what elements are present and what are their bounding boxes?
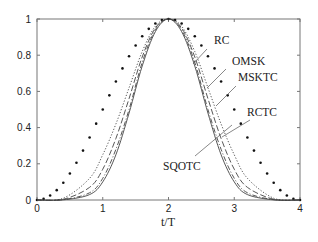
rc-dot (115, 80, 118, 83)
pulse-shape-chart: 01234 00.20.40.60.81 RCOMSKMSKTCRCTCSQOT… (0, 0, 318, 242)
label-msktc: MSKTC (238, 71, 278, 83)
rc-dot (121, 67, 124, 70)
rc-dot (180, 22, 183, 25)
rc-dot (220, 80, 223, 83)
rc-dot (108, 94, 111, 97)
x-tick-label: 4 (297, 203, 303, 214)
rc-dot (194, 35, 197, 38)
rc-dot (75, 161, 78, 164)
y-tick-labels: 00.20.40.60.81 (17, 14, 31, 206)
x-tick-label: 0 (34, 203, 40, 214)
rc-dot (213, 67, 216, 70)
rc-dot (272, 181, 275, 184)
x-tick-labels: 01234 (34, 203, 303, 214)
rc-dot (62, 181, 65, 184)
rc-dot (279, 189, 282, 192)
label-rctc: RCTC (247, 106, 277, 118)
y-tick-label: 0.2 (17, 158, 31, 169)
y-tick-label: 0.6 (17, 86, 31, 97)
rc-dot (207, 55, 210, 58)
rc-dot (128, 55, 131, 58)
rc-dot (286, 194, 289, 197)
y-tick-label: 0.4 (17, 122, 31, 133)
x-tick-label: 2 (166, 203, 172, 214)
leader-line-omsk (207, 69, 226, 88)
rc-dot (154, 22, 157, 25)
y-tick-label: 1 (25, 14, 31, 25)
x-tick-label: 3 (231, 203, 237, 214)
rc-dot (141, 35, 144, 38)
curve-labels: RCOMSKMSKTCRCTCSQOTC (163, 34, 278, 172)
rc-dot (147, 28, 150, 31)
rc-dot (69, 172, 72, 175)
rc-dot (55, 189, 58, 192)
x-axis-label: t/T (161, 215, 176, 229)
leader-line-rctc (222, 120, 250, 137)
rc-dot (246, 136, 249, 139)
rc-dot (88, 136, 91, 139)
label-sqotc: SQOTC (163, 160, 201, 172)
rc-dot (101, 108, 104, 111)
label-rc: RC (214, 34, 230, 46)
label-omsk: OMSK (232, 55, 266, 67)
x-tick-label: 1 (100, 203, 106, 214)
rc-dot (240, 122, 243, 125)
rc-dot (95, 122, 98, 125)
rc-dot (134, 44, 137, 47)
rc-dot (253, 149, 256, 152)
rc-dot (259, 161, 262, 164)
rc-dot (200, 44, 203, 47)
leader-line-msktc (216, 86, 236, 106)
y-tick-label: 0.8 (17, 50, 31, 61)
rc-dot (233, 108, 236, 111)
rc-dot (187, 28, 190, 31)
y-tick-label: 0 (25, 195, 31, 206)
rc-dot (82, 149, 85, 152)
rc-dot (266, 172, 269, 175)
rc-dot (49, 194, 52, 197)
